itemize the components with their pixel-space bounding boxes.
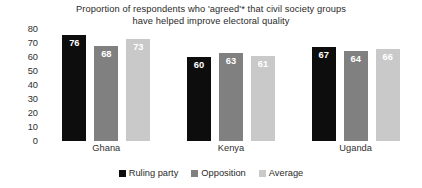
bar-ghana-average[interactable]: 73 — [126, 39, 150, 141]
y-tick-label: 80 — [0, 25, 38, 34]
bar-slot: 68 — [94, 29, 118, 141]
y-tick-label: 70 — [0, 39, 38, 48]
y-tick-label: 0 — [0, 137, 38, 146]
bar-slot: 67 — [312, 29, 336, 141]
bar-slot: 63 — [219, 29, 243, 141]
bar-uganda-opposition[interactable]: 64 — [344, 51, 368, 141]
bar-group-ghana: 766873Ghana — [44, 29, 169, 141]
bar-slot: 60 — [187, 29, 211, 141]
bar-kenya-opposition[interactable]: 63 — [219, 53, 243, 141]
bar-value-label: 76 — [62, 38, 86, 48]
x-axis-label-kenya: Kenya — [169, 143, 294, 154]
bar-value-label: 66 — [376, 52, 400, 62]
legend-item-opposition[interactable]: Opposition — [191, 168, 245, 178]
chart-title: Proportion of respondents who 'agreed'* … — [0, 3, 422, 27]
chart-legend: Ruling partyOppositionAverage — [0, 168, 422, 178]
y-tick-label: 60 — [0, 53, 38, 62]
y-tick-label: 10 — [0, 123, 38, 132]
x-axis-label-uganda: Uganda — [293, 143, 418, 154]
chart-title-line-1: Proportion of respondents who 'agreed'* … — [0, 3, 422, 15]
chart-title-line-2: have helped improve electoral quality — [0, 15, 422, 27]
bar-value-label: 68 — [94, 49, 118, 59]
bar-slot: 66 — [376, 29, 400, 141]
bar-slot: 73 — [126, 29, 150, 141]
bar-uganda-average[interactable]: 66 — [376, 49, 400, 141]
bar-slot: 76 — [62, 29, 86, 141]
bar-uganda-ruling[interactable]: 67 — [312, 47, 336, 141]
legend-label: Opposition — [201, 168, 245, 178]
bar-value-label: 63 — [219, 56, 243, 66]
legend-item-ruling[interactable]: Ruling party — [119, 168, 179, 178]
legend-label: Average — [269, 168, 303, 178]
legend-label: Ruling party — [129, 168, 179, 178]
x-axis-label-ghana: Ghana — [44, 143, 169, 154]
y-tick-label: 30 — [0, 95, 38, 104]
bar-value-label: 64 — [344, 54, 368, 64]
bar-group-uganda: 676466Uganda — [293, 29, 418, 141]
plot-area: 766873Ghana606361Kenya676466Uganda — [44, 29, 418, 141]
legend-swatch-icon — [259, 170, 266, 177]
bar-kenya-average[interactable]: 61 — [251, 56, 275, 141]
bar-slot: 64 — [344, 29, 368, 141]
y-tick-label: 40 — [0, 81, 38, 90]
bar-value-label: 60 — [187, 60, 211, 70]
bar-value-label: 67 — [312, 50, 336, 60]
bar-group-kenya: 606361Kenya — [169, 29, 294, 141]
bar-kenya-ruling[interactable]: 60 — [187, 57, 211, 141]
legend-swatch-icon — [191, 170, 198, 177]
legend-swatch-icon — [119, 170, 126, 177]
bar-ghana-opposition[interactable]: 68 — [94, 46, 118, 141]
bar-value-label: 61 — [251, 59, 275, 69]
bar-slot: 61 — [251, 29, 275, 141]
bar-value-label: 73 — [126, 42, 150, 52]
y-tick-label: 20 — [0, 109, 38, 118]
legend-item-average[interactable]: Average — [259, 168, 303, 178]
bar-chart: Proportion of respondents who 'agreed'* … — [0, 0, 422, 188]
bar-ghana-ruling[interactable]: 76 — [62, 35, 86, 141]
y-axis: 80706050403020100 — [0, 29, 38, 141]
y-tick-label: 50 — [0, 67, 38, 76]
